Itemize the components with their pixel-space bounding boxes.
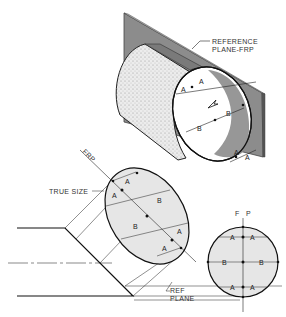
end-view: F P A A B B A A — [207, 210, 280, 312]
label-reference-plane-1: REFERENCE — [212, 38, 258, 45]
dim-a-3: A — [234, 149, 239, 156]
end-dim-b-2: B — [259, 259, 264, 266]
auxiliary-view-diagram: A A B B A A REFERENCE PLANE-FRP — [0, 0, 286, 317]
aux-dim-b-1: B — [157, 197, 162, 204]
end-dim-a-2: A — [250, 234, 255, 241]
aux-dim-a-2: A — [112, 192, 117, 199]
label-frp-axis: FRP — [81, 148, 97, 164]
aux-dim-a-1: A — [125, 178, 130, 185]
dim-a-4: A — [245, 154, 250, 161]
dim-b-2: B — [226, 110, 231, 117]
end-dim-a-1: A — [230, 234, 235, 241]
aux-dim-a-4: A — [162, 245, 167, 252]
end-dim-b-1: B — [222, 259, 227, 266]
auxiliary-view: A A B B A A FRP TRUE SIZE REF PLANE — [49, 148, 206, 302]
dim-a-2: A — [199, 78, 204, 85]
label-fp-f: F — [235, 210, 240, 217]
label-fp-p: P — [246, 210, 251, 217]
dim-b-1: B — [197, 125, 202, 132]
end-dim-a-4: A — [250, 284, 255, 291]
dim-a-1: A — [181, 86, 186, 93]
label-ref-plane-2: PLANE — [170, 295, 194, 302]
label-reference-plane-2: PLANE-FRP — [212, 46, 254, 53]
front-view — [8, 228, 133, 296]
label-true-size: TRUE SIZE — [49, 188, 88, 195]
label-ref-plane-1: REF — [170, 287, 185, 294]
end-dim-a-3: A — [230, 284, 235, 291]
pictorial-view: A A B B A A REFERENCE PLANE-FRP — [116, 13, 265, 172]
aux-dim-a-3: A — [177, 228, 182, 235]
aux-dim-b-2: B — [133, 223, 138, 230]
